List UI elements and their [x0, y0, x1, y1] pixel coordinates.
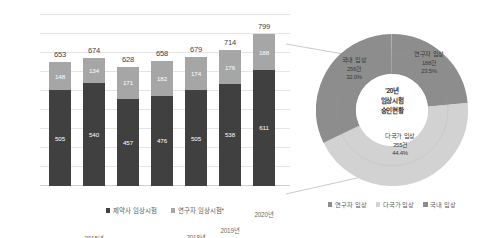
segment-value: 182: [157, 75, 167, 82]
bar-segment-researcher[interactable]: 174: [185, 57, 207, 90]
segment-value: 134: [89, 67, 99, 74]
bar-2018[interactable]: 679 174 505 2018년: [185, 57, 207, 186]
plot-area: 653 148 505 2014년 674 134 540 2015년: [40, 14, 290, 186]
bar-segment-researcher[interactable]: 176: [219, 50, 241, 84]
segment-value: 457: [123, 139, 133, 146]
bar-chart-legend: 제약사 임상시험 연구자 임상시험*: [40, 206, 290, 215]
slice-percent: 32.0%: [328, 73, 380, 82]
segment-value: 148: [55, 73, 65, 80]
segment-value: 188: [259, 49, 269, 56]
chart-canvas: 900 800 700 600 500 400 300 200 100 0 65…: [0, 0, 484, 238]
donut-center-label: '20년 임상시험 승인현황: [362, 86, 422, 116]
bar-segment-researcher[interactable]: 182: [151, 61, 173, 96]
x-axis-tick-2019: 2019년: [207, 226, 253, 235]
slice-percent: 23.5%: [402, 67, 456, 76]
legend-item-multinational[interactable]: 다국가 임상: [376, 200, 415, 209]
x-axis-tick-2015: 2015년: [71, 234, 117, 238]
bar-segment-pharma[interactable]: 538: [219, 84, 241, 186]
center-line-1: '20년: [362, 86, 422, 96]
bar-segment-researcher[interactable]: 134: [83, 58, 105, 84]
legend-label: 국내 임상: [430, 200, 456, 209]
legend-swatch-icon: [376, 202, 381, 207]
segment-value: 505: [55, 135, 65, 142]
bar-2020[interactable]: 799 188 611 2020년: [253, 34, 275, 186]
slice-name: 연구자 임상: [402, 50, 456, 59]
segment-value: 171: [123, 79, 133, 86]
segment-value: 611: [259, 124, 269, 131]
segment-value: 540: [89, 131, 99, 138]
bar-segment-pharma[interactable]: 476: [151, 96, 173, 186]
center-line-3: 승인현황: [362, 106, 422, 116]
legend-swatch-icon: [171, 208, 176, 213]
slice-count: 355건: [372, 141, 428, 150]
legend-item-domestic[interactable]: 국내 임상: [423, 200, 456, 209]
bar-segment-researcher[interactable]: 148: [49, 62, 71, 90]
legend-label: 다국가 임상: [383, 200, 415, 209]
bar-2019[interactable]: 714 176 538 2019년: [219, 50, 241, 186]
segment-value: 538: [225, 131, 235, 138]
segment-value: 505: [191, 135, 201, 142]
segment-value: 476: [157, 137, 167, 144]
donut-label-multinational: 다국가 임상 355건 44.4%: [372, 132, 428, 158]
donut-label-domestic: 국내 임상 256건 32.0%: [328, 56, 380, 82]
bar-total-label: 799: [241, 22, 287, 31]
bar-2017[interactable]: 658 182 476 2017년: [151, 61, 173, 186]
slice-name: 다국가 임상: [372, 132, 428, 141]
segment-value: 176: [225, 64, 235, 71]
legend-label: 연구자 임상: [335, 200, 367, 209]
donut-graphic: '20년 임상시험 승인현황 연구자 임상 188건 23.5% 국내 임상 2…: [316, 34, 468, 186]
bar-2016[interactable]: 628 171 457 2016년: [117, 67, 139, 186]
donut-label-researcher: 연구자 임상 188건 23.5%: [402, 50, 456, 76]
bar-segment-pharma[interactable]: 457: [117, 99, 139, 186]
legend-label: 제약사 임상시험: [113, 206, 157, 215]
slice-percent: 44.4%: [372, 149, 428, 158]
donut-chart-legend: 연구자 임상 다국가 임상 국내 임상: [300, 200, 484, 209]
gridline: [40, 14, 290, 15]
legend-swatch-icon: [423, 202, 428, 207]
segment-value: 174: [191, 70, 201, 77]
bar-segment-pharma[interactable]: 505: [49, 90, 71, 186]
legend-item-pharma[interactable]: 제약사 임상시험: [106, 206, 157, 215]
legend-swatch-icon: [106, 208, 111, 213]
bar-segment-pharma[interactable]: 505: [185, 90, 207, 186]
bar-2014[interactable]: 653 148 505 2014년: [49, 62, 71, 186]
bar-segment-researcher[interactable]: 188: [253, 34, 275, 70]
stacked-bar-chart: 900 800 700 600 500 400 300 200 100 0 65…: [0, 0, 300, 238]
slice-count: 188건: [402, 59, 456, 68]
legend-label: 연구자 임상시험*: [178, 206, 224, 215]
bar-2015[interactable]: 674 134 540 2015년: [83, 58, 105, 186]
legend-item-researcher[interactable]: 연구자 임상: [328, 200, 367, 209]
bar-segment-researcher[interactable]: 171: [117, 67, 139, 100]
legend-item-researcher[interactable]: 연구자 임상시험*: [171, 206, 224, 215]
bar-segment-pharma[interactable]: 540: [83, 83, 105, 186]
bar-segment-pharma[interactable]: 611: [253, 70, 275, 186]
donut-chart: '20년 임상시험 승인현황 연구자 임상 188건 23.5% 국내 임상 2…: [300, 18, 484, 238]
center-line-2: 임상시험: [362, 96, 422, 106]
bar-total-label: 674: [71, 46, 117, 55]
slice-count: 256건: [328, 65, 380, 74]
slice-name: 국내 임상: [328, 56, 380, 65]
bar-total-label: 714: [207, 38, 253, 47]
legend-swatch-icon: [328, 202, 333, 207]
